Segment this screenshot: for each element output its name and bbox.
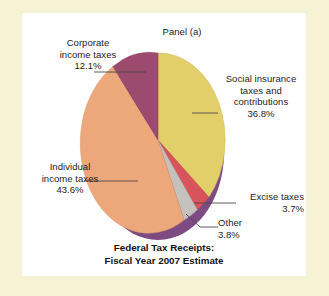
figure-root: Panel (a) Corporate income taxes 12.1% S… bbox=[0, 0, 329, 296]
pie-label-individual-income-taxes: Individual income taxes 43.6% bbox=[22, 161, 118, 196]
panel-title: Panel (a) bbox=[142, 26, 222, 38]
pie-label-excise-taxes: Excise taxes 3.7% bbox=[218, 191, 304, 214]
pie-label-social-insurance: Social insurance taxes and contributions… bbox=[218, 73, 304, 119]
pie-label-other: Other 3.8% bbox=[218, 217, 280, 240]
pie-chart: Panel (a) Corporate income taxes 12.1% S… bbox=[22, 13, 306, 276]
pie-label-corporate-income-taxes: Corporate income taxes 12.1% bbox=[40, 37, 136, 72]
chart-panel: Panel (a) Corporate income taxes 12.1% S… bbox=[22, 13, 306, 276]
chart-caption: Federal Tax Receipts: Fiscal Year 2007 E… bbox=[22, 242, 306, 267]
